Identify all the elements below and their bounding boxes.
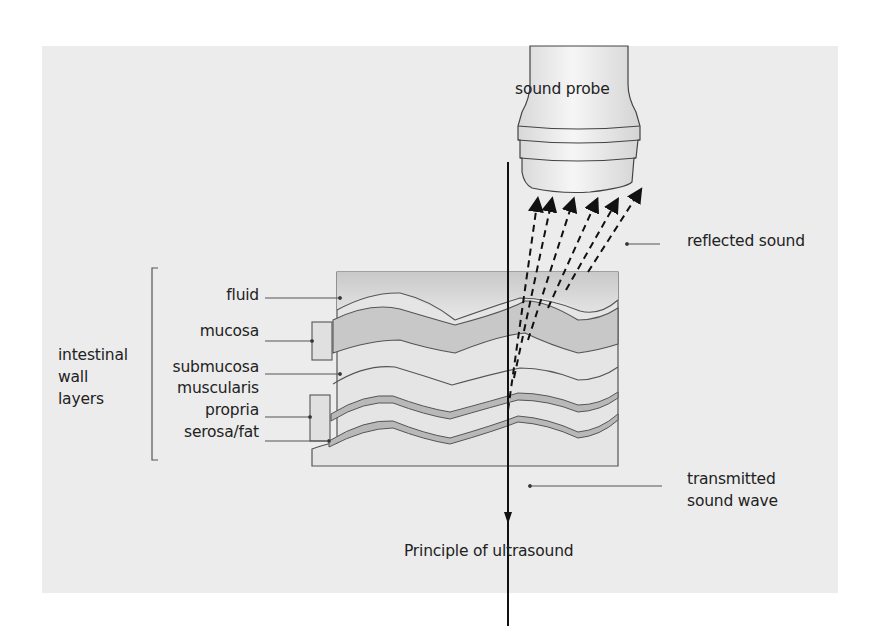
layer-label-serosa-fat: serosa/fat [184,423,259,442]
reflected-sound-label: reflected sound [687,232,805,251]
group-label-line3: layers [58,390,104,409]
layer-label-muscularis: muscularis [177,379,259,398]
probe-label: sound probe [515,80,610,99]
figure-caption: Principle of ultrasound [404,542,573,561]
group-label-line1: intestinal [58,346,128,365]
transmitted-arrow-overlay [0,0,872,626]
layer-label-submucosa: submucosa [173,358,259,377]
layer-label-mucosa: mucosa [200,322,259,341]
transmitted-label-line1: transmitted [687,470,776,489]
group-label-line2: wall [58,368,88,387]
transmitted-label-line2: sound wave [687,492,778,511]
layer-label-fluid: fluid [226,286,259,305]
layer-label-propria: propria [205,401,259,420]
